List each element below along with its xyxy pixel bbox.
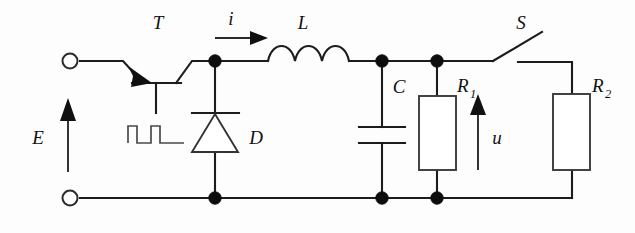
circuit-diagram: T i L D C R 1 u S R 2 E bbox=[0, 0, 635, 233]
node-dot-cap-bottom bbox=[376, 192, 388, 204]
resistor-2-body bbox=[553, 94, 590, 170]
source-terminal-negative[interactable] bbox=[63, 191, 78, 206]
node-dot-r1-bottom bbox=[431, 192, 443, 204]
node-dot-r1-top bbox=[431, 55, 443, 67]
node-dot-diode-top bbox=[209, 55, 221, 67]
label-resistor-2-subscript: 2 bbox=[605, 87, 611, 101]
wire-source-to-transistor bbox=[80, 61, 133, 72]
label-resistor-2: R bbox=[591, 75, 604, 96]
gate-pulse-symbol bbox=[128, 126, 184, 143]
label-transistor: T bbox=[153, 12, 165, 33]
label-source: E bbox=[31, 127, 44, 148]
wire-transistor-to-node bbox=[176, 61, 215, 83]
label-current: i bbox=[228, 8, 233, 29]
label-capacitor: C bbox=[393, 76, 406, 97]
label-voltage: u bbox=[492, 127, 502, 148]
node-dot-cap-top bbox=[376, 55, 388, 67]
voltage-arrow-u bbox=[470, 94, 486, 170]
source-arrow-E bbox=[60, 98, 76, 172]
label-resistor-1: R bbox=[456, 75, 469, 96]
label-inductor: L bbox=[297, 12, 309, 33]
label-diode: D bbox=[248, 127, 263, 148]
source-terminal-positive[interactable] bbox=[63, 54, 78, 69]
circuit-schematic-canvas: T i L D C R 1 u S R 2 E bbox=[0, 0, 635, 233]
diode-symbol bbox=[192, 113, 239, 152]
transistor-symbol bbox=[128, 66, 181, 113]
current-arrow-i bbox=[215, 31, 268, 45]
node-dot-diode-bottom bbox=[209, 192, 221, 204]
resistor-1-body bbox=[419, 96, 456, 170]
switch-symbol[interactable] bbox=[493, 32, 542, 61]
label-resistor-1-subscript: 1 bbox=[470, 87, 476, 101]
capacitor-symbol bbox=[359, 127, 405, 143]
inductor-symbol bbox=[268, 46, 349, 61]
label-switch: S bbox=[516, 12, 526, 33]
